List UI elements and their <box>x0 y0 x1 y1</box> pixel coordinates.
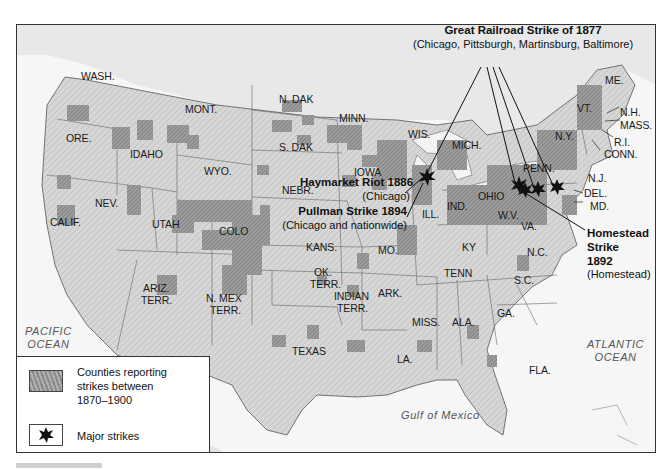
state-label-ri: R.I. <box>614 137 630 148</box>
railroad-title: Great Railroad Strike of 1877 <box>413 24 633 38</box>
state-label-ariz-terr: TERR. <box>141 295 172 306</box>
water-label-pacific: PACIFIC OCEAN <box>25 325 72 350</box>
caption-placeholder-bar <box>16 463 102 468</box>
map-frame: WASH. ORE. CALIF. IDAHO NEV. MONT. WYO. … <box>16 24 656 453</box>
map-legend: Counties reporting strikes between 1870–… <box>17 356 210 453</box>
state-label-nc: N.C. <box>527 247 548 258</box>
callout-haymarket: Haymarket Riot 1886 (Chicago) <box>300 176 410 203</box>
state-label-kans: KANS. <box>306 242 337 253</box>
water-label-gulf: Gulf of Mexico <box>401 409 480 422</box>
state-label-mo: MO. <box>378 245 398 256</box>
state-label-tenn: TENN <box>444 268 472 279</box>
state-label-idaho: IDAHO <box>130 149 163 160</box>
state-label-mass: MASS. <box>620 120 652 131</box>
legend-counties-l1: Counties reporting <box>77 366 167 378</box>
homestead-title-3: 1892 <box>587 255 651 269</box>
state-label-sdak: S. DAK <box>279 142 313 153</box>
state-label-ill: ILL. <box>422 209 439 220</box>
railroad-detail: (Chicago, Pittsburgh, Martinsburg, Balti… <box>413 38 633 50</box>
state-label-ga: GA. <box>497 308 515 319</box>
state-label-wash: WASH. <box>81 71 115 82</box>
state-label-nh: N.H. <box>620 107 641 118</box>
callout-railroad-strike: Great Railroad Strike of 1877 (Chicago, … <box>413 24 633 51</box>
haymarket-title: Haymarket Riot 1886 <box>300 176 410 190</box>
state-label-del: DEL. <box>584 188 607 199</box>
state-label-minn: MINN. <box>339 113 368 124</box>
state-label-calif: CALIF. <box>50 217 81 228</box>
legend-counties-label: Counties reporting strikes between 1870–… <box>77 366 167 407</box>
state-label-indian: INDIAN <box>334 291 369 302</box>
legend-major-strikes-label: Major strikes <box>77 430 139 442</box>
state-label-colo: COLO <box>219 226 248 237</box>
state-label-nj: N.J. <box>588 173 606 184</box>
callout-homestead: Homestead Strike 1892 (Homestead) <box>587 227 651 282</box>
pacific-line1: PACIFIC <box>25 325 72 337</box>
state-label-md: MD. <box>590 201 609 212</box>
state-label-la: LA. <box>397 354 412 365</box>
pullman-title: Pullman Strike 1894 <box>279 205 407 219</box>
callout-pullman: Pullman Strike 1894 (Chicago and nationw… <box>279 205 407 232</box>
state-label-ok-terr: TERR. <box>310 279 341 290</box>
homestead-title-1: Homestead <box>587 227 651 241</box>
state-label-wyo: WYO. <box>204 166 232 177</box>
state-label-ariz: ARIZ. <box>143 283 169 294</box>
state-label-penn: PENN. <box>523 163 555 174</box>
state-label-nmex-terr: TERR. <box>210 305 241 316</box>
water-label-atlantic: ATLANTIC OCEAN <box>587 338 644 363</box>
state-label-ohio: OHIO <box>478 191 504 202</box>
state-label-sc: S.C. <box>514 275 534 286</box>
state-label-miss: MISS. <box>412 317 440 328</box>
pacific-line2: OCEAN <box>27 338 69 350</box>
counties-swatch-icon <box>29 370 63 392</box>
state-label-ndak: N. DAK <box>279 94 313 105</box>
atlantic-line1: ATLANTIC <box>587 338 644 350</box>
legend-counties-l3: 1870–1900 <box>77 394 132 406</box>
pullman-detail: (Chicago and nationwide) <box>282 219 407 231</box>
state-label-vt: VT. <box>577 103 592 114</box>
state-label-nmex: N. MEX <box>206 293 242 304</box>
state-label-ky: KY <box>462 242 476 253</box>
state-label-ok: OK. <box>314 267 332 278</box>
state-label-ark: ARK. <box>378 288 402 299</box>
state-label-wv: W.V. <box>498 210 519 221</box>
atlantic-line2: OCEAN <box>595 351 637 363</box>
homestead-title-2: Strike <box>587 241 651 255</box>
state-label-mich: MICH. <box>452 140 481 151</box>
state-label-indian-terr: TERR. <box>337 303 368 314</box>
starburst-icon <box>29 424 63 446</box>
homestead-detail: (Homestead) <box>587 268 651 280</box>
state-label-wis: WIS. <box>408 129 430 140</box>
state-label-ny: N.Y. <box>555 131 574 142</box>
state-label-ore: ORE. <box>66 133 91 144</box>
state-label-ind: IND. <box>447 201 468 212</box>
haymarket-detail: (Chicago) <box>362 190 410 202</box>
state-label-ala: ALA. <box>452 317 474 328</box>
state-label-nev: NEV. <box>95 198 118 209</box>
state-label-fla: FLA. <box>529 365 551 376</box>
state-label-mont: MONT. <box>185 104 217 115</box>
state-label-utah: UTAH <box>152 219 179 230</box>
state-label-texas: TEXAS <box>292 346 326 357</box>
legend-counties-l2: strikes between <box>77 380 153 392</box>
state-label-va: VA. <box>521 221 537 232</box>
state-label-me: ME. <box>605 75 623 86</box>
state-label-conn: CONN. <box>604 149 637 160</box>
